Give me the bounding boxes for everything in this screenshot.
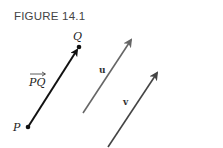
svg-text:PQ: PQ: [28, 76, 45, 89]
point-p: [26, 125, 31, 130]
label-pq: PQ: [28, 72, 46, 89]
vector-diagram: P Q PQ u v: [0, 0, 223, 148]
label-q: Q: [73, 30, 82, 43]
point-q: [77, 45, 82, 50]
label-v: v: [122, 97, 129, 107]
label-u: u: [99, 65, 106, 75]
vector-v: [108, 73, 157, 147]
label-p: P: [12, 121, 21, 134]
